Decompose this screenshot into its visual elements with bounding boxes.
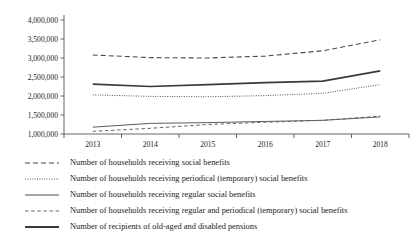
data-series-line xyxy=(93,40,381,58)
legend-swatch-long-dash xyxy=(24,157,60,169)
legend-label: Number of households receiving regular s… xyxy=(70,189,256,201)
line-chart-svg: 1,000,0001,500,0002,000,0002,500,0003,00… xyxy=(0,0,414,150)
data-series-line xyxy=(93,116,381,131)
x-axis-tick-label: 2016 xyxy=(258,140,273,149)
legend-swatch-solid-thick xyxy=(24,221,60,233)
legend-label: Number of households receiving regular a… xyxy=(70,205,347,217)
legend-label: Number of recipients of old-aged and dis… xyxy=(70,221,257,233)
y-axis-tick-label: 1,500,000 xyxy=(28,111,59,120)
y-axis-tick-label: 2,500,000 xyxy=(28,73,59,82)
legend-swatch-dotted xyxy=(24,173,60,185)
y-axis-tick-label: 3,500,000 xyxy=(28,35,59,44)
data-series-line xyxy=(93,71,381,87)
x-axis-tick-label: 2014 xyxy=(143,140,158,149)
legend-label: Number of households receiving periodica… xyxy=(70,173,307,185)
plot-area: 1,000,0001,500,0002,000,0002,500,0003,00… xyxy=(0,0,414,150)
legend-label: Number of households receiving social be… xyxy=(70,157,230,169)
x-axis-tick-label: 2013 xyxy=(85,140,100,149)
y-axis-tick-label: 2,000,000 xyxy=(28,92,59,101)
x-axis: 201320142015201620172018 xyxy=(64,134,409,149)
y-axis-tick-label: 3,000,000 xyxy=(28,54,59,63)
legend-swatch-solid-thin xyxy=(24,189,60,201)
legend-item: Number of households receiving periodica… xyxy=(24,171,410,187)
x-axis-tick-label: 2017 xyxy=(315,140,330,149)
legend-item: Number of households receiving social be… xyxy=(24,155,410,171)
data-series-line xyxy=(93,117,381,127)
legend-item: Number of households receiving regular s… xyxy=(24,187,410,203)
legend-swatch-short-dash xyxy=(24,205,60,217)
data-series-group xyxy=(93,40,381,132)
y-axis-tick-label: 4,000,000 xyxy=(28,16,59,25)
x-axis-tick-label: 2018 xyxy=(373,140,388,149)
y-axis-tick-label: 1,000,000 xyxy=(28,130,59,139)
chart-figure: 1,000,0001,500,0002,000,0002,500,0003,00… xyxy=(0,0,414,242)
y-axis: 1,000,0001,500,0002,000,0002,500,0003,00… xyxy=(28,15,64,139)
chart-legend: Number of households receiving social be… xyxy=(24,155,410,235)
legend-item: Number of households receiving regular a… xyxy=(24,203,410,219)
legend-item: Number of recipients of old-aged and dis… xyxy=(24,219,410,235)
x-axis-tick-label: 2015 xyxy=(200,140,215,149)
